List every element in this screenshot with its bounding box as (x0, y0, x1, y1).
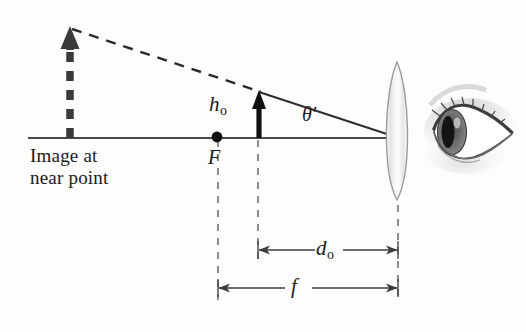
dashed-principal-ray (72, 29, 261, 92)
object-distance-label: do (316, 236, 334, 264)
object-height-subscript: o (220, 103, 227, 118)
image-caption: Image at near point (30, 145, 109, 190)
focal-point-label: F (208, 146, 220, 170)
object-distance-subscript: o (327, 247, 334, 262)
solid-refracted-ray (259, 92, 399, 138)
image-caption-line-2: near point (30, 167, 109, 189)
image-caption-line-1: Image at (30, 145, 109, 167)
figure-canvas: Image at near point F ho θ′ do f (0, 0, 526, 332)
dashed-image-arrow (61, 26, 80, 138)
object-height-label: ho (209, 92, 227, 120)
angle-prime-label: θ′ (302, 103, 316, 127)
focal-length-dimension (218, 279, 398, 297)
solid-object-arrow (252, 90, 266, 138)
converging-lens (386, 62, 407, 200)
object-distance-symbol: d (316, 236, 327, 260)
focal-point-dot (212, 132, 223, 143)
observer-eye (424, 86, 516, 174)
focal-length-label: f (291, 274, 297, 299)
object-height-symbol: h (209, 92, 220, 116)
